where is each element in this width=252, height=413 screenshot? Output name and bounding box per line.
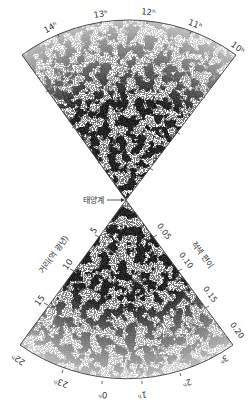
ra-label-22h: 22ʰ [10, 351, 27, 367]
redshift-tick-0.15: 0.15 [201, 285, 219, 305]
redshift-tick-0.20: 0.20 [228, 321, 246, 341]
ra-label-23h: 23ʰ [53, 376, 70, 390]
ra-label-2h: 2ʰ [181, 377, 193, 389]
distance-tick-5: 5 [88, 225, 99, 235]
galaxy-redshift-wedge-diagram: 태양계 14ʰ 13ʰ 12ʰ 11ʰ 10ʰ 22ʰ 23ʰ 0ʰ 1ʰ 2ʰ… [0, 0, 252, 413]
redshift-tick-0.05: 0.05 [155, 222, 173, 242]
solar-system-label: 태양계 [83, 195, 104, 205]
ra-label-13h: 13ʰ [93, 8, 109, 20]
ra-label-12h: 12ʰ [141, 6, 156, 17]
ra-label-0h: 0ʰ [98, 390, 107, 400]
upper-wedge [0, 0, 252, 200]
distance-tick-10: 10 [60, 257, 74, 272]
redshift-tick-0.10: 0.10 [177, 251, 195, 271]
ra-label-1h: 1ʰ [137, 390, 147, 401]
distance-tick-15: 15 [32, 293, 46, 308]
solar-system-marker: 태양계 [83, 195, 125, 205]
ra-label-11h: 11ʰ [187, 17, 204, 32]
ra-label-3h: 3ʰ [217, 353, 230, 366]
ra-label-14h: 14ʰ [42, 20, 59, 36]
